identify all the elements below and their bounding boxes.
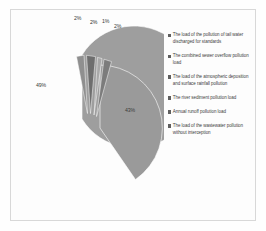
- pie-label-annual-runoff: 43%: [125, 107, 135, 113]
- pie-label-atmospheric: 1%: [102, 18, 109, 24]
- chart-legend: The load of the pollution of tail water …: [168, 32, 252, 144]
- legend-swatch-icon: [168, 34, 171, 37]
- pie-plot-area: 2% 2% 1% 2% 43% 49%: [14, 14, 164, 204]
- legend-item-label: Annual runoff pollution load: [173, 109, 226, 116]
- legend-item-label: The river sediment pollution load: [173, 95, 236, 102]
- legend-item-wastewater[interactable]: The load of the wastewater pollution wit…: [168, 123, 252, 137]
- legend-item-label: The load of the wastewater pollution wit…: [173, 123, 252, 137]
- legend-swatch-icon: [168, 75, 171, 78]
- legend-item-label: The load of the pollution of tail water …: [173, 32, 252, 46]
- legend-item-label: The load of the atmospheric deposition a…: [173, 74, 252, 88]
- pie-svg: [14, 14, 164, 204]
- legend-swatch-icon: [168, 124, 171, 127]
- legend-swatch-icon: [168, 96, 171, 99]
- pie-label-river-sediment: 2%: [114, 23, 121, 29]
- pie-label-tail-water: 2%: [74, 15, 81, 21]
- legend-item-river-sediment[interactable]: The river sediment pollution load: [168, 95, 252, 102]
- pie-chart-figure: 2% 2% 1% 2% 43% 49% The load of the poll…: [0, 0, 266, 231]
- legend-item-label: The combined sewer overflow pollution lo…: [173, 53, 252, 67]
- legend-item-atmospheric[interactable]: The load of the atmospheric deposition a…: [168, 74, 252, 88]
- legend-item-combined-sewer[interactable]: The combined sewer overflow pollution lo…: [168, 53, 252, 67]
- legend-swatch-icon: [168, 110, 171, 113]
- legend-item-tail-water[interactable]: The load of the pollution of tail water …: [168, 32, 252, 46]
- legend-item-annual-runoff[interactable]: Annual runoff pollution load: [168, 109, 252, 116]
- pie-label-combined-sewer: 2%: [90, 19, 97, 25]
- pie-label-wastewater: 49%: [36, 82, 46, 88]
- legend-swatch-icon: [168, 55, 171, 58]
